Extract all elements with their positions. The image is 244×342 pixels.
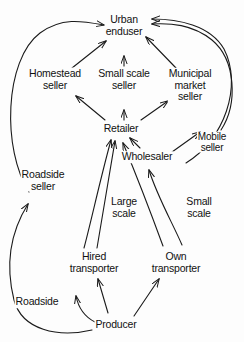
node-roadside: Roadside	[15, 296, 60, 308]
node-municipal-seller: Municipal market seller	[168, 68, 213, 103]
node-small-scale-seller: Small scale seller	[97, 68, 150, 91]
node-own-transporter: Own transporter	[151, 251, 202, 274]
node-producer: Producer	[94, 319, 137, 331]
node-wholesaler: Wholesaler	[121, 151, 174, 163]
marketing-channel-diagram: Urban enduser Homestead seller Small sca…	[0, 0, 244, 342]
node-large-scale: Large scale	[110, 196, 138, 219]
node-hired-transporter: Hired transporter	[69, 251, 120, 274]
node-layer: Urban enduser Homestead seller Small sca…	[0, 0, 244, 342]
node-mobile-seller: Mobile seller	[197, 132, 227, 153]
node-small-scale: Small scale	[185, 196, 212, 219]
node-retailer: Retailer	[103, 123, 140, 135]
node-urban-enduser: Urban enduser	[105, 14, 144, 37]
node-homestead-seller: Homestead seller	[28, 68, 82, 91]
node-roadside-seller: Roadside seller	[21, 169, 66, 192]
